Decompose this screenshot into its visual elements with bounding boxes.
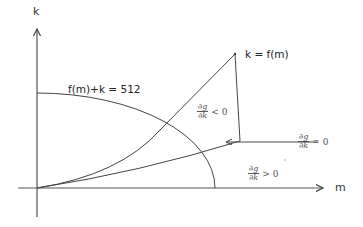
production-curve-edge [235, 54, 240, 141]
production-curve-upper [37, 54, 235, 188]
k-axis-label: k [33, 6, 39, 17]
stray-dot [284, 159, 285, 160]
region-zero-label: ∂g∂k = 0 [298, 133, 328, 151]
diagram-canvas [0, 0, 363, 227]
production-curve-label: k = f(m) [245, 49, 289, 60]
budget-curve [37, 93, 215, 188]
m-axis-label: m [335, 182, 346, 193]
budget-curve-label: f(m)+k = 512 [68, 84, 141, 95]
region-positive-label: ∂g∂k > 0 [248, 165, 278, 183]
region-negative-label: ∂g∂k < 0 [197, 103, 227, 121]
peak-point [234, 53, 237, 56]
